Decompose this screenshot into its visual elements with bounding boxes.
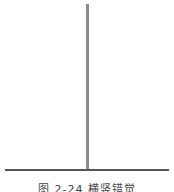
illusion-figure: 图 2-24 横竖错觉 [0, 0, 174, 192]
horizontal-line [5, 169, 169, 171]
figure-caption: 图 2-24 横竖错觉 [0, 180, 174, 192]
vertical-line [86, 4, 89, 171]
